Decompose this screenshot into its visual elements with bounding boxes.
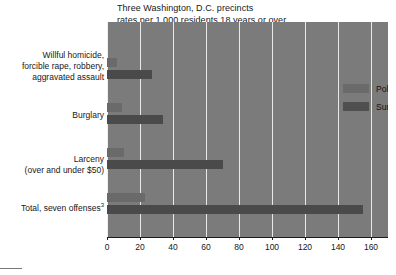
bar-survey-0 xyxy=(107,70,152,79)
x-tick-label-100: 100 xyxy=(265,242,279,252)
bar-police-3 xyxy=(107,193,145,202)
footnote-rule xyxy=(0,268,22,269)
legend-label-survey: Survey rate xyxy=(376,102,388,112)
category-label-total: Total, seven offenses3 xyxy=(21,203,104,214)
x-tick-label-60: 60 xyxy=(201,242,210,252)
category-label-line: aggravated assault xyxy=(22,72,104,83)
x-tick-80 xyxy=(239,237,240,240)
legend-item-police-rate: Police rate xyxy=(343,82,388,95)
bar-police-1 xyxy=(107,103,122,112)
legend-swatch-survey-icon xyxy=(343,102,369,111)
x-tick-label-160: 160 xyxy=(364,242,378,252)
x-tick-label-120: 120 xyxy=(298,242,312,252)
x-tick-0 xyxy=(107,237,108,240)
x-tick-label-20: 20 xyxy=(135,242,144,252)
category-label-line: forcible rape, robbery, xyxy=(22,61,104,72)
legend-item-survey-rate: Survey rate xyxy=(343,100,388,113)
x-tick-120 xyxy=(305,237,306,240)
legend-swatch-police-icon xyxy=(343,84,369,93)
category-label-line: (over and under $50) xyxy=(25,165,104,176)
category-label-line: Total, seven offenses3 xyxy=(21,203,104,214)
chart-page: Three Washington, D.C. precincts rates p… xyxy=(0,0,396,275)
x-axis-line xyxy=(107,237,388,238)
x-tick-40 xyxy=(173,237,174,240)
gridline-160 xyxy=(371,22,372,237)
x-tick-160 xyxy=(371,237,372,240)
bar-survey-3 xyxy=(107,205,363,214)
category-label-text: Total, seven offenses xyxy=(21,203,101,213)
category-label-larceny: Larceny (over and under $50) xyxy=(25,154,104,176)
category-label-violent-crime: Willful homicide, forcible rape, robbery… xyxy=(22,50,104,83)
x-tick-60 xyxy=(206,237,207,240)
category-label-burglary: Burglary xyxy=(72,110,104,121)
category-label-line: Larceny xyxy=(25,154,104,165)
bar-survey-2 xyxy=(107,160,223,169)
chart-title-line-1: Three Washington, D.C. precincts xyxy=(117,3,377,15)
bar-police-2 xyxy=(107,148,124,157)
x-tick-label-80: 80 xyxy=(234,242,243,252)
category-footnote-marker: 3 xyxy=(101,202,104,208)
bar-police-0 xyxy=(107,58,117,67)
category-label-line: Burglary xyxy=(72,110,104,121)
plot-area: Police rate Survey rate xyxy=(107,22,388,237)
chart-legend: Police rate Survey rate xyxy=(343,82,388,118)
x-tick-label-40: 40 xyxy=(168,242,177,252)
legend-label-police: Police rate xyxy=(376,84,388,94)
x-tick-20 xyxy=(140,237,141,240)
x-tick-label-0: 0 xyxy=(105,242,110,252)
x-tick-140 xyxy=(338,237,339,240)
category-label-line: Willful homicide, xyxy=(22,50,104,61)
x-tick-100 xyxy=(272,237,273,240)
x-tick-label-140: 140 xyxy=(331,242,345,252)
bar-survey-1 xyxy=(107,115,163,124)
